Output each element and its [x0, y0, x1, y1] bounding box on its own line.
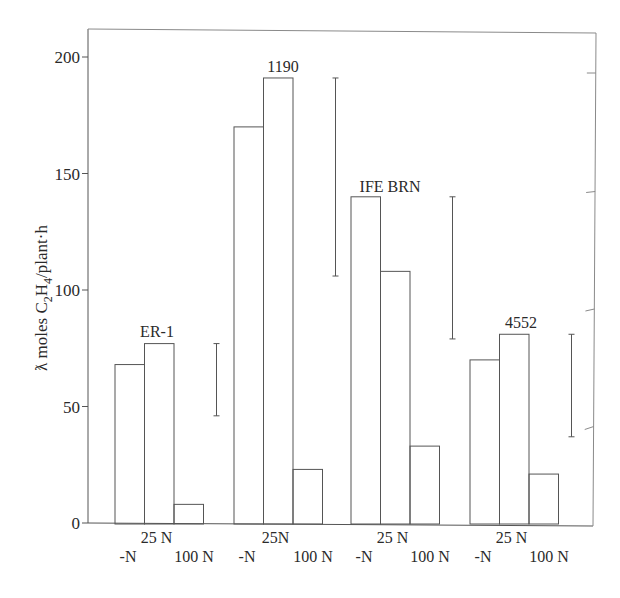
- x-axis-labels: 25 N-N100 N25N-N100 N25 N-N100 N25 N-N10…: [120, 529, 570, 565]
- bar-er-1--n: [115, 365, 145, 524]
- x-label-100n: 100 N: [529, 548, 569, 565]
- x-label-100n: 100 N: [174, 548, 214, 565]
- y-tick-label: 150: [55, 165, 81, 184]
- bar-1190--n: [234, 127, 264, 524]
- y-axis-label: ƛ moles C2H4/plant·h: [32, 225, 55, 371]
- bar-ife-brn-25n: [381, 271, 411, 524]
- x-label-minus-n: -N: [120, 548, 137, 565]
- group-label: IFE BRN: [360, 178, 421, 195]
- bar-4552-25n: [500, 334, 530, 524]
- y-tick-label: 0: [72, 514, 81, 533]
- y-tick-right: [585, 309, 594, 311]
- x-label-25n: 25 N: [496, 529, 528, 546]
- plot-frame: [88, 29, 596, 526]
- x-label-25n: 25N: [262, 529, 290, 546]
- x-label-minus-n: -N: [475, 548, 492, 565]
- bar-ife-brn-100n: [410, 446, 440, 524]
- y-tick-label: 100: [55, 281, 81, 300]
- x-label-25n: 25 N: [377, 529, 409, 546]
- bar-ife-brn--n: [351, 197, 381, 524]
- group-label: 4552: [505, 314, 537, 331]
- axis-lines: [88, 29, 593, 526]
- x-label-25n: 25 N: [141, 529, 173, 546]
- x-label-minus-n: -N: [356, 548, 373, 565]
- x-label-minus-n: -N: [239, 548, 256, 565]
- group-labels: ER-11190IFE BRN4552: [140, 58, 537, 340]
- bar-1190-25n: [264, 78, 294, 524]
- error-bars: [214, 78, 575, 437]
- y-tick-right: [586, 192, 595, 193]
- bars: [115, 78, 559, 524]
- bar-er-1-100n: [174, 504, 204, 524]
- y-tick-right: [585, 427, 594, 430]
- bar-4552--n: [470, 360, 500, 524]
- group-label: 1190: [267, 58, 298, 75]
- x-label-100n: 100 N: [410, 548, 450, 565]
- bar-4552-100n: [529, 474, 559, 524]
- frame-top-right: [88, 29, 596, 526]
- bar-chart: 050100150200 ER-11190IFE BRN4552 25 N-N1…: [0, 0, 620, 598]
- y-tick-label: 200: [55, 48, 81, 67]
- y-axis: 050100150200: [55, 48, 596, 533]
- bar-1190-100n: [293, 469, 323, 524]
- y-tick-label: 50: [63, 398, 80, 417]
- bar-er-1-25n: [145, 344, 175, 524]
- group-label: ER-1: [140, 323, 174, 340]
- x-label-100n: 100 N: [293, 548, 333, 565]
